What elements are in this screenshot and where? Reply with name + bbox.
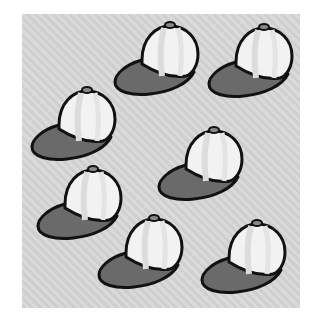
baseball-cap-icon (96, 213, 186, 291)
baseball-cap-icon (112, 20, 202, 98)
baseball-cap-icon (206, 22, 296, 100)
baseball-cap-icon (199, 218, 289, 296)
baseball-cap-icon (156, 125, 246, 203)
baseball-cap-icon (29, 85, 119, 163)
